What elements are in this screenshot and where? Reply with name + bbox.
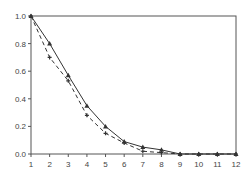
series-line (31, 16, 236, 154)
series-line (31, 16, 236, 154)
line-chart: 0.00.20.40.60.81.0 123456789101112 (0, 0, 250, 179)
x-tick-label: 8 (159, 160, 164, 169)
y-tick-label: 1.0 (15, 12, 27, 21)
triangle-marker (84, 103, 89, 108)
cross-marker (104, 131, 108, 135)
series-dashed (29, 14, 238, 156)
cross-marker (85, 113, 89, 117)
y-tick-label: 0.2 (15, 122, 27, 131)
x-tick-label: 5 (103, 160, 108, 169)
x-tick-label: 6 (122, 160, 127, 169)
x-tick-label: 1 (29, 160, 34, 169)
y-tick-label: 0.6 (15, 67, 27, 76)
triangle-marker (66, 73, 71, 78)
x-tick-label: 7 (141, 160, 146, 169)
x-tick-label: 11 (213, 160, 222, 169)
x-tick-label: 9 (178, 160, 183, 169)
x-tick-label: 3 (66, 160, 71, 169)
cross-marker (141, 149, 145, 153)
y-tick-label: 0.0 (15, 150, 27, 159)
y-tick-label: 0.8 (15, 40, 27, 49)
y-axis-ticks: 0.00.20.40.60.81.0 (15, 12, 31, 159)
x-tick-label: 10 (194, 160, 203, 169)
cross-marker (48, 55, 52, 59)
plot-frame (31, 16, 236, 154)
chart-series (29, 14, 239, 157)
x-tick-label: 12 (232, 160, 241, 169)
series-solid (29, 14, 239, 157)
x-tick-label: 4 (85, 160, 90, 169)
x-tick-label: 2 (47, 160, 52, 169)
chart-axes (31, 16, 236, 154)
x-axis-ticks: 123456789101112 (29, 154, 241, 169)
y-tick-label: 0.4 (15, 95, 27, 104)
